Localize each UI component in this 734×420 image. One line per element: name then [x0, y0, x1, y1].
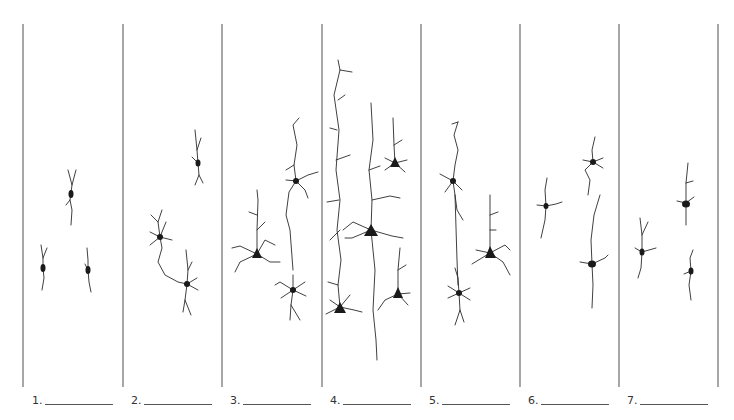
panel-4-label: 4.	[330, 394, 411, 407]
panel-1-answer-blank[interactable]	[45, 394, 113, 405]
panel-7-label: 7.	[627, 394, 708, 407]
panel-3-neurons	[232, 118, 318, 320]
panel-6-number: 6.	[528, 394, 539, 407]
panel-2-answer-blank[interactable]	[144, 394, 212, 405]
panel-4-answer-blank[interactable]	[343, 394, 411, 405]
panel-4-neurons	[326, 60, 410, 360]
panel-3-label: 3.	[230, 394, 311, 407]
panel-2-label: 2.	[131, 394, 212, 407]
panel-6-neurons	[537, 137, 608, 308]
panel-5-number: 5.	[429, 394, 440, 407]
panel-2-number: 2.	[131, 394, 142, 407]
panel-6-label: 6.	[528, 394, 609, 407]
panel-1-number: 1.	[32, 394, 43, 407]
panel-1-neurons	[41, 170, 92, 292]
panel-5-neurons	[440, 122, 510, 325]
panel-7-neurons	[635, 163, 694, 300]
neuron-development-diagram	[0, 0, 734, 420]
panel-6-answer-blank[interactable]	[541, 394, 609, 405]
panel-dividers	[23, 24, 718, 387]
panel-5-label: 5.	[429, 394, 510, 407]
panel-1-label: 1.	[32, 394, 113, 407]
panel-2-neurons	[150, 130, 203, 315]
panel-7-number: 7.	[627, 394, 638, 407]
panel-4-number: 4.	[330, 394, 341, 407]
panel-5-answer-blank[interactable]	[442, 394, 510, 405]
panel-3-number: 3.	[230, 394, 241, 407]
panel-3-answer-blank[interactable]	[243, 394, 311, 405]
panel-7-answer-blank[interactable]	[640, 394, 708, 405]
